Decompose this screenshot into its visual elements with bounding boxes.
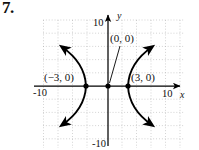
textbook-figure-page: 7. [0, 0, 199, 150]
point-vertex-right [125, 83, 130, 88]
y-axis-label: y [117, 11, 121, 21]
y-axis-tick-label-10: 10 [93, 18, 104, 29]
x-axis-tick-label-neg10: -10 [33, 88, 47, 99]
origin-point-label: (0, 0) [110, 33, 134, 44]
point-vertex-left [83, 83, 88, 88]
y-axis-tick-label-neg10: -10 [92, 139, 106, 150]
x-axis-tick-label-10: 10 [162, 89, 173, 100]
curve-left-lower [62, 86, 86, 125]
vertex-right-label: (3, 0) [131, 72, 155, 83]
vertex-left-label: (−3, 0) [44, 72, 74, 83]
curve-right-lower [128, 86, 152, 125]
point-origin [105, 83, 110, 88]
x-axis-label: x [180, 90, 184, 100]
origin-leader-line [110, 46, 121, 83]
